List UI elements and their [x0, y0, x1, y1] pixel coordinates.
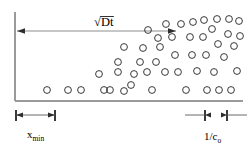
particle-marker	[169, 34, 176, 41]
arrow-head-left-icon	[17, 28, 25, 33]
particle-marker	[121, 44, 128, 51]
particle-marker	[187, 34, 194, 41]
particle-marker	[78, 87, 85, 94]
particle-marker	[128, 82, 135, 89]
particle-marker	[221, 54, 228, 61]
particle-marker	[216, 87, 223, 94]
particle-marker	[200, 34, 207, 41]
particle-marker	[131, 71, 138, 78]
dimension-arrow-head-icon	[48, 112, 55, 117]
particle-marker	[65, 87, 72, 94]
particle-marker	[175, 69, 182, 76]
inv-c0-dimension	[185, 110, 247, 121]
particle-scatter-group	[44, 16, 244, 95]
particle-marker	[231, 43, 238, 50]
particle-marker	[140, 45, 147, 52]
dimension-arrow-head-icon	[16, 112, 23, 117]
particle-marker	[163, 21, 170, 28]
arrow-head-right-icon	[168, 28, 176, 33]
particle-marker	[115, 59, 122, 66]
particle-marker	[201, 17, 208, 24]
particle-marker	[226, 16, 233, 23]
particle-marker	[121, 88, 128, 95]
dimension-lines-group	[16, 110, 247, 121]
particle-marker	[155, 35, 162, 42]
particle-marker	[237, 33, 244, 40]
dimension-arrow-head-icon	[221, 113, 227, 118]
particle-marker	[96, 71, 103, 78]
particle-marker	[115, 69, 122, 76]
particle-marker	[162, 69, 169, 76]
particle-marker	[211, 69, 218, 76]
particle-marker	[172, 52, 179, 59]
particle-marker	[225, 31, 232, 38]
particle-marker	[228, 87, 235, 94]
dimension-arrow-head-icon	[205, 113, 211, 118]
particle-marker	[194, 68, 201, 75]
particle-marker	[190, 19, 197, 26]
diffusion-figure: √Dt xmin 1/co	[0, 0, 251, 148]
particle-marker	[236, 18, 243, 25]
particle-marker	[214, 16, 221, 23]
particle-marker	[137, 59, 144, 66]
particle-marker	[144, 69, 151, 76]
particle-marker	[203, 52, 210, 59]
particle-marker	[189, 52, 196, 59]
particle-marker	[145, 27, 152, 34]
particle-marker	[204, 87, 211, 94]
particle-marker	[44, 87, 51, 94]
x-min-dimension	[16, 110, 55, 121]
particle-marker	[157, 44, 164, 51]
figure-canvas	[0, 0, 251, 148]
particle-marker	[234, 68, 241, 75]
particle-marker	[153, 59, 160, 66]
diffusion-length-arrow	[17, 28, 176, 33]
particle-marker	[183, 87, 190, 94]
particle-marker	[149, 87, 156, 94]
particle-marker	[209, 26, 216, 33]
particle-marker	[215, 41, 222, 48]
particle-marker	[178, 21, 185, 28]
